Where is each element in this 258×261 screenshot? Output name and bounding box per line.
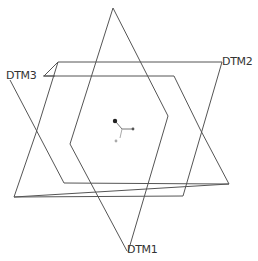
dtm1-plane-edge (113, 8, 168, 252)
dtm3-plane[interactable] (14, 76, 229, 197)
dtm1-label[interactable]: DTM1 (127, 244, 157, 255)
diagram-svg (0, 0, 258, 261)
csys-origin (113, 119, 117, 123)
dtm2-label[interactable]: DTM2 (222, 56, 252, 67)
dtm3-label[interactable]: DTM3 (6, 70, 36, 81)
csys-icon (113, 119, 135, 143)
dtm2-plane[interactable] (14, 62, 222, 197)
dtm2-plane-edge (10, 80, 229, 184)
datum-planes-diagram: DTM3 DTM2 DTM1 (0, 0, 258, 261)
dtm1-plane[interactable] (70, 8, 127, 251)
